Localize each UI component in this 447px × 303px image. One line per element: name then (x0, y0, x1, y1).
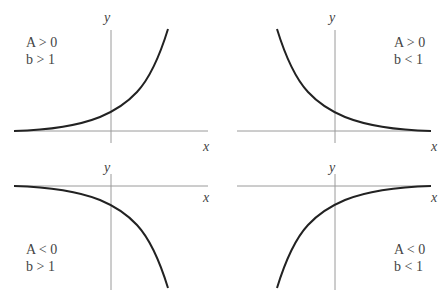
panel-bottom-left: y x A < 0 b > 1 (14, 160, 210, 290)
x-axis-label: x (202, 139, 210, 154)
panel-bottom-right: y x A < 0 b < 1 (237, 160, 438, 290)
condition-a: A < 0 (394, 242, 425, 257)
condition-a: A < 0 (26, 242, 57, 257)
x-axis-label: x (430, 139, 438, 154)
x-axis-label: x (430, 190, 438, 205)
condition-b: b < 1 (394, 259, 423, 274)
y-axis-label: y (102, 10, 111, 25)
y-axis-label: y (327, 10, 336, 25)
panel-top-right: y x A > 0 b < 1 (237, 10, 438, 154)
x-axis-label: x (202, 190, 210, 205)
exponential-graphs-diagram: y x A > 0 b > 1 y x A > 0 b < 1 y x A < … (0, 0, 447, 303)
condition-a: A > 0 (26, 35, 57, 50)
panel-top-left: y x A > 0 b > 1 (14, 10, 210, 154)
condition-b: b > 1 (26, 52, 55, 67)
condition-b: b < 1 (394, 52, 423, 67)
condition-b: b > 1 (26, 259, 55, 274)
condition-a: A > 0 (394, 35, 425, 50)
y-axis-label: y (327, 160, 336, 175)
y-axis-label: y (102, 160, 111, 175)
